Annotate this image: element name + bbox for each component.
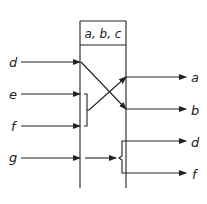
input-label-f: f <box>11 119 18 134</box>
output-b: b <box>126 103 199 118</box>
output-a: a <box>126 70 199 85</box>
input-label-d: d <box>9 55 18 70</box>
input-g: g <box>9 150 80 165</box>
output-f: f <box>126 167 199 182</box>
bracket-e-f <box>84 94 89 126</box>
input-f: f <box>11 119 80 134</box>
header-label: a, b, c <box>85 27 122 41</box>
output-label-d: d <box>191 135 200 150</box>
output-label-b: b <box>191 103 199 118</box>
output-d: d <box>126 135 200 150</box>
output-label-f: f <box>192 167 199 182</box>
input-d: d <box>9 55 80 70</box>
mapping-ef-to-a <box>89 77 126 110</box>
mapping-diagram: a, b, c d e f g a b d f <box>0 0 207 204</box>
mapping-d-to-b <box>81 62 126 109</box>
output-label-a: a <box>191 70 199 85</box>
input-label-e: e <box>9 87 17 102</box>
input-e: e <box>9 87 80 102</box>
input-label-g: g <box>9 150 17 165</box>
bracket-d-f <box>119 141 126 173</box>
